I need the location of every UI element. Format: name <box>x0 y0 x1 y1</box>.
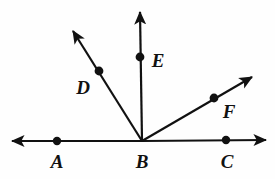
point-dot-d <box>95 67 104 76</box>
point-dot-c <box>222 136 230 144</box>
ray-b-to-c <box>142 140 266 141</box>
ray-b-to-e <box>140 12 142 141</box>
point-label-c: C <box>221 152 234 171</box>
point-label-e: E <box>152 51 165 70</box>
point-label-f: F <box>223 102 236 121</box>
point-dot-e <box>136 53 145 62</box>
point-label-d: D <box>76 78 90 97</box>
point-dot-f <box>210 94 219 103</box>
geometry-diagram-canvas: A B C D E F <box>0 0 275 179</box>
point-label-b: B <box>136 152 149 171</box>
point-label-a: A <box>51 152 64 171</box>
rays-group <box>12 12 266 141</box>
point-dot-a <box>53 137 61 145</box>
